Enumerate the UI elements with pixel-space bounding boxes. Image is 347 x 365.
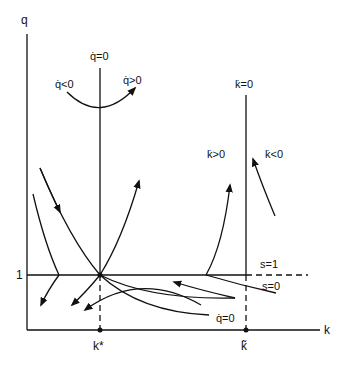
qdot-direction-arrow (67, 88, 135, 108)
y-axis-label: q (21, 13, 28, 27)
unstable-arm-lower (72, 275, 100, 305)
stable-arm-upper (40, 168, 100, 275)
qdot-zero-lower-curve (100, 275, 209, 315)
qdot-pos-label: q̇>0 (123, 74, 142, 86)
stable-arm-lower (100, 275, 235, 298)
qdot-zero-bottom-label: q̇=0 (216, 312, 235, 324)
qdot-neg-label: q̇<0 (55, 78, 74, 90)
stable-arm-arrow (40, 168, 60, 212)
x-tick-kstar: k* (93, 339, 104, 353)
s-one-label: s=1 (260, 258, 278, 270)
x-tick-ktilde: k̃ (241, 339, 248, 353)
y-tick-one: 1 (16, 268, 23, 282)
ktilde-point (244, 328, 249, 333)
kdot-neg-label: k̇<0 (265, 148, 283, 160)
kdot-neg-trajectory (253, 159, 275, 216)
stable-arm-lower-arrow (174, 282, 235, 298)
s-zero-label: s=0 (262, 280, 280, 292)
steady-state-point (98, 273, 103, 278)
lower-trajectory (85, 289, 201, 310)
left-trajectory-upper (33, 194, 59, 275)
x-axis-label: k (324, 323, 331, 337)
right-trajectory-upper (206, 185, 230, 275)
left-trajectory-lower (41, 275, 59, 305)
qdot-zero-label: q̇=0 (90, 50, 109, 62)
kdot-pos-label: k̇>0 (207, 148, 225, 160)
phase-diagram: q k 1 k* k̃ q̇=0 k̇=0 q̇=0 q̇<0 q̇>0 k̇>… (0, 0, 347, 365)
kstar-point (98, 328, 103, 333)
kdot-zero-label: k̇=0 (235, 78, 253, 90)
unstable-arm-upper (100, 181, 139, 275)
